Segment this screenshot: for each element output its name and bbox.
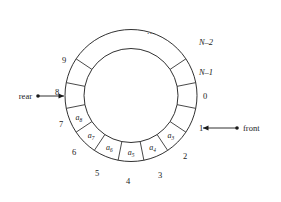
slot-index-labels: 0123456789N–2N–1 — [55, 37, 214, 186]
slot-divider — [140, 142, 144, 161]
slot-divider — [118, 142, 122, 161]
slot-divider — [76, 59, 92, 70]
slot-index-label-2: 2 — [183, 151, 187, 161]
slot-value-subscript-4: 5 — [132, 152, 135, 158]
slot-value-7: a8 — [75, 113, 82, 123]
slot-divider — [170, 122, 186, 133]
slot-value-subscript-2: 3 — [171, 135, 175, 141]
slot-index-label-14: N–2 — [198, 37, 214, 47]
slot-value-subscript-3: 4 — [153, 147, 156, 153]
slot-value-subscript-5: 6 — [110, 147, 113, 153]
slot-index-label-7: 7 — [59, 119, 63, 129]
slot-value-5: a6 — [106, 143, 113, 153]
slot-divider — [66, 105, 85, 109]
slot-index-label-0: 0 — [203, 91, 207, 101]
ellipsis-label: ... — [147, 26, 155, 36]
slot-divider — [177, 105, 196, 109]
outer-circle — [65, 30, 197, 162]
front-pointer-label: front — [243, 123, 260, 133]
slot-index-label-3: 3 — [158, 170, 162, 180]
slot-divider — [94, 135, 105, 151]
inner-circle — [84, 49, 178, 143]
slot-value-2: a3 — [168, 131, 175, 141]
slot-divider — [177, 83, 196, 87]
rear-pointer-label: rear — [19, 91, 32, 101]
slot-value-subscript-7: 8 — [79, 117, 82, 123]
ring-outline — [65, 30, 197, 162]
slot-divider — [157, 135, 168, 151]
slot-index-label-1: 1 — [199, 123, 203, 133]
front-pointer: front — [203, 123, 260, 133]
slot-divider — [170, 59, 186, 70]
slot-value-4: a5 — [128, 148, 135, 158]
slot-index-label-6: 6 — [72, 147, 76, 157]
slot-value-subscript-6: 7 — [92, 135, 95, 141]
rear-pointer-arrowhead — [59, 94, 65, 99]
slot-index-label-8: 8 — [55, 87, 59, 97]
circular-queue-figure: 0123456789N–2N–1 a3a4a5a6a7a8 ... rear f… — [0, 0, 281, 202]
slot-index-label-15: N–1 — [198, 67, 213, 77]
front-pointer-arrowhead — [203, 126, 209, 131]
slot-index-label-5: 5 — [95, 168, 99, 178]
slot-divider — [66, 83, 85, 87]
slot-value-6: a7 — [88, 131, 95, 141]
slot-index-label-4: 4 — [126, 176, 131, 186]
slot-value-3: a4 — [149, 143, 156, 153]
slot-index-label-9: 9 — [62, 55, 66, 65]
